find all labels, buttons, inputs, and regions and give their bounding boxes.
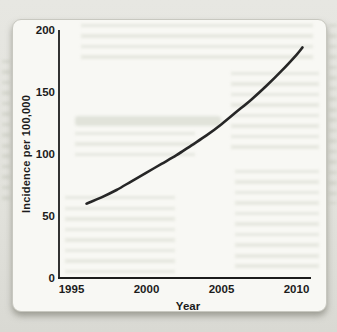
x-tick-label: 1995 [50,282,94,296]
chart-figure-card: 0501001502001995200020052010 Incidence p… [12,19,327,312]
incidence-curve [87,47,303,203]
y-tick-label: 200 [13,23,55,37]
scanned-page-background: 0501001502001995200020052010 Incidence p… [0,0,337,332]
line-chart-canvas [13,20,328,313]
x-tick-label: 2010 [275,282,319,296]
x-axis-title: Year [166,300,210,312]
print-bleed-texture [329,24,337,204]
x-tick-label: 2000 [125,282,169,296]
x-tick-label: 2005 [200,282,244,296]
y-axis-title: Incidence per 100,000 [20,84,34,224]
print-bleed-texture [2,60,10,200]
